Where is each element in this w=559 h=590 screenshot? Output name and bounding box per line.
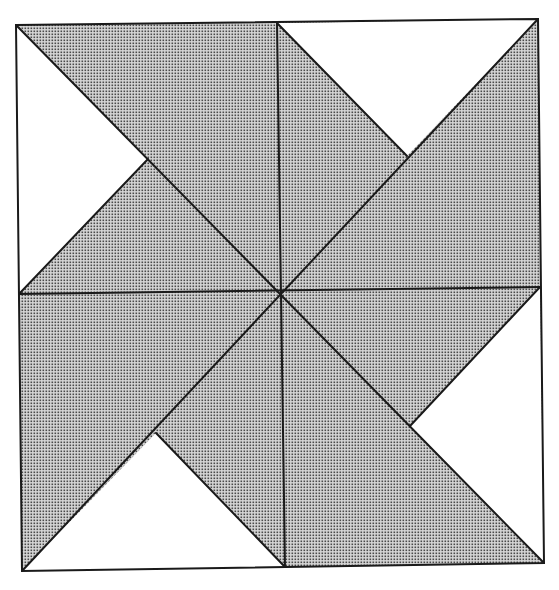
pinwheel-diagram xyxy=(0,0,559,590)
